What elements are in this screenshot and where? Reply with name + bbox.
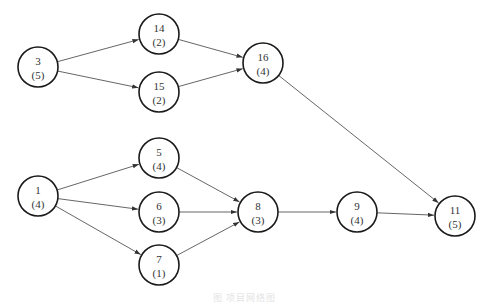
- edge-14-to-16: [178, 39, 243, 57]
- node-id-label: 9: [354, 200, 360, 212]
- node-id-label: 1: [35, 184, 41, 196]
- edge-16-to-11: [279, 75, 439, 202]
- node-5: 5(4): [139, 138, 179, 178]
- node-duration-label: (2): [153, 36, 166, 49]
- node-duration-label: (3): [252, 214, 265, 227]
- node-9: 9(4): [337, 192, 377, 232]
- node-circle: [18, 176, 58, 216]
- node-id-label: 6: [156, 200, 162, 212]
- node-duration-label: (4): [257, 65, 270, 78]
- node-circle: [139, 138, 179, 178]
- node-11: 11(5): [435, 196, 475, 236]
- edge-9-to-11: [377, 213, 434, 215]
- edge-1-to-5: [57, 164, 139, 190]
- edge-5-to-8: [177, 168, 240, 202]
- node-14: 14(2): [139, 14, 179, 54]
- node-circle: [139, 192, 179, 232]
- node-circle: [139, 14, 179, 54]
- node-duration-label: (2): [153, 94, 166, 107]
- node-id-label: 7: [156, 253, 162, 265]
- node-1: 1(4): [18, 176, 58, 216]
- node-id-label: 5: [156, 146, 162, 158]
- node-duration-label: (4): [351, 214, 364, 227]
- network-diagram: 3(5)14(2)15(2)16(4)1(4)5(4)6(3)7(1)8(3)9…: [0, 0, 489, 304]
- node-15: 15(2): [139, 72, 179, 112]
- node-3: 3(5): [18, 47, 58, 87]
- node-id-label: 15: [154, 80, 166, 92]
- node-circle: [238, 192, 278, 232]
- node-duration-label: (4): [32, 198, 45, 211]
- node-7: 7(1): [139, 245, 179, 285]
- node-duration-label: (5): [449, 218, 462, 231]
- edge-3-to-14: [57, 40, 138, 62]
- node-duration-label: (1): [153, 267, 166, 280]
- node-circle: [435, 196, 475, 236]
- node-circle: [139, 245, 179, 285]
- node-id-label: 3: [35, 55, 41, 67]
- node-id-label: 16: [258, 51, 270, 63]
- node-id-label: 8: [255, 200, 261, 212]
- edge-7-to-8: [177, 222, 240, 256]
- node-circle: [139, 72, 179, 112]
- nodes-group: 3(5)14(2)15(2)16(4)1(4)5(4)6(3)7(1)8(3)9…: [18, 14, 475, 285]
- node-circle: [337, 192, 377, 232]
- node-16: 16(4): [243, 43, 283, 83]
- node-circle: [18, 47, 58, 87]
- node-6: 6(3): [139, 192, 179, 232]
- node-duration-label: (4): [153, 160, 166, 173]
- node-id-label: 11: [450, 204, 461, 216]
- edge-15-to-16: [178, 69, 243, 87]
- edge-3-to-15: [58, 71, 139, 88]
- edge-1-to-6: [58, 199, 138, 210]
- edge-1-to-7: [55, 206, 140, 255]
- node-duration-label: (3): [153, 214, 166, 227]
- node-8: 8(3): [238, 192, 278, 232]
- node-id-label: 14: [154, 22, 166, 34]
- figure-caption: 图 项目网络图: [0, 291, 489, 304]
- node-duration-label: (5): [32, 69, 45, 82]
- node-circle: [243, 43, 283, 83]
